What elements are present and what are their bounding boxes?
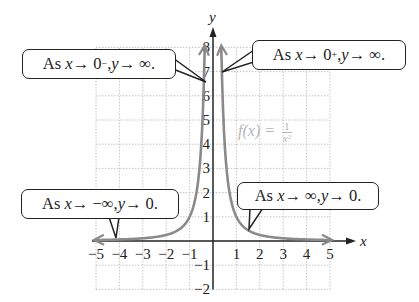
x-tick-label: 5 [326,246,334,262]
callout-text-result: → ∞. [119,56,156,73]
callout-var-x: x [65,56,72,73]
callout-text-as: As [273,47,291,64]
callout-x-to-0-minus: As x → 0−, y → ∞. [22,49,176,79]
callout-var-y: y [341,47,348,64]
x-tick-label: −2 [158,246,174,262]
function-fraction: 1x² [282,121,292,144]
callout-text-as: As [255,188,273,205]
callout-var-y: y [111,56,118,73]
x-axis-label: x [359,233,367,249]
x-axis-arrow-icon [346,238,356,245]
callout-text-limit: → ∞, [284,188,321,205]
callout-text-result: → ∞. [349,47,386,64]
function-label: f(x) = 1x² [238,121,292,144]
callout-x-to-infinity: As x → ∞, y → 0. [237,182,379,210]
fraction-denominator: x² [282,133,292,144]
y-tick-label: −1 [194,257,210,273]
x-tick-label: −5 [88,246,104,262]
x-tick-label: −4 [111,246,127,262]
callout-text-limit: → −∞, [72,196,118,213]
callout-text-result: → 0. [328,188,361,205]
callout-text-result: → 0. [125,196,158,213]
callout-var-y: y [321,188,328,205]
x-tick-label: −3 [135,246,151,262]
callout-var-x: x [64,196,71,213]
y-tick-label: −2 [194,281,210,297]
x-tick-label: 4 [303,246,311,262]
x-tick-label: 1 [233,246,241,262]
y-axis-arrow-icon [210,27,217,37]
y-axis-label: y [207,9,216,25]
callout-var-x: x [277,188,284,205]
function-label-prefix: f(x) = [238,122,279,139]
callout-var-y: y [118,196,125,213]
callout-text-limit: → 0 [73,56,102,73]
callout-text-as: As [42,196,60,213]
y-tick-label: 3 [203,160,211,176]
callout-var-x: x [295,47,302,64]
callout-tail-neg-infinity [109,217,119,238]
y-tick-label: 4 [203,136,211,152]
callout-x-to-0-plus: As x → 0+, y → ∞. [252,40,406,70]
callout-x-to-neg-infinity: As x → −∞, y → 0. [21,189,179,219]
x-tick-label: 3 [279,246,287,262]
callout-text-limit: → 0 [303,47,332,64]
y-tick-label: 1 [203,209,211,225]
callout-tail-infinity [249,208,263,229]
y-tick-label: 2 [203,185,211,201]
callout-text-as: As [43,56,61,73]
x-tick-label: 2 [256,246,264,262]
